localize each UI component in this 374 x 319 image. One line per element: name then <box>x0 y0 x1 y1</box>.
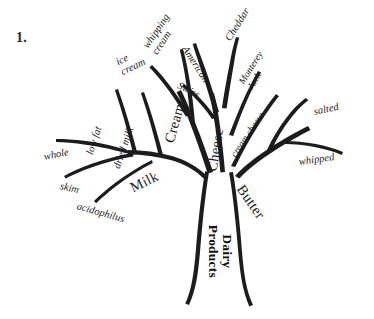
diagram-canvas: 1. <box>0 0 374 319</box>
twig-cheddar <box>222 37 239 109</box>
label-dairy-products: Dairy Products <box>206 221 235 281</box>
twig-dried-milk <box>141 92 163 156</box>
